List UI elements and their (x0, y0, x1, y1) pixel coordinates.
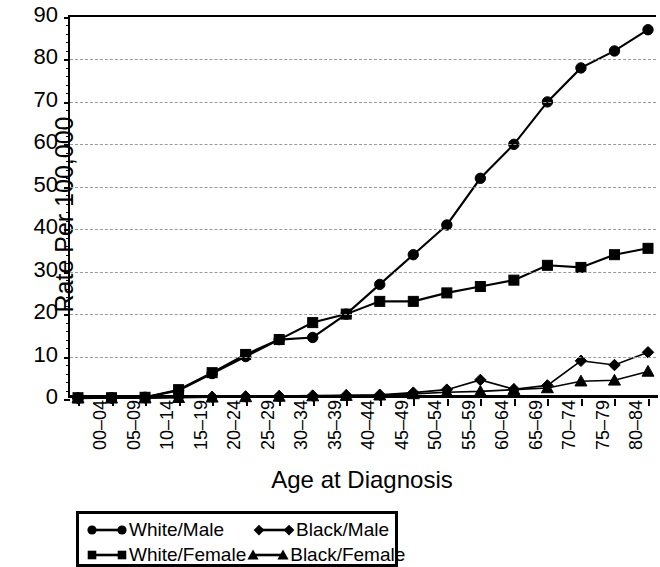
y-axis-minor-tick (66, 221, 70, 222)
y-axis-tick (64, 187, 70, 189)
y-axis-tick (64, 272, 70, 274)
x-axis-tick-label: 25–29 (259, 400, 277, 462)
series-marker-circle-icon (375, 279, 385, 289)
series-marker-square-icon (274, 335, 284, 345)
y-axis-minor-tick (66, 25, 70, 26)
y-axis-tick (64, 102, 70, 104)
series-marker-triangle-icon (642, 365, 654, 376)
y-axis-tick-label: 10 (14, 344, 58, 366)
y-axis-minor-tick (66, 263, 70, 264)
y-axis-minor-tick (66, 153, 70, 154)
y-axis-tick-labels: 9080706050403020100 (14, 0, 58, 567)
legend-marker-square-icon (85, 545, 129, 565)
y-axis-tick-label: 80 (14, 46, 58, 68)
x-axis-tick-label: 20–24 (225, 400, 243, 462)
y-axis-minor-tick (66, 68, 70, 69)
y-axis-minor-tick (66, 365, 70, 366)
gridline (70, 272, 656, 273)
legend-label: Black/Female (290, 545, 405, 564)
y-axis-minor-tick (66, 348, 70, 349)
y-axis-minor-tick (66, 34, 70, 35)
gridline (70, 144, 656, 145)
legend-item-white-female: White/Female (85, 545, 246, 565)
gridline (70, 187, 656, 188)
x-axis-tick-label: 65–69 (527, 400, 545, 462)
series-marker-square-icon (475, 282, 485, 292)
x-axis-line (68, 395, 658, 398)
x-axis-tick-label: 45–49 (393, 400, 411, 462)
series-line (78, 352, 648, 398)
series-marker-circle-icon (408, 249, 418, 259)
series-marker-square-icon (609, 250, 619, 260)
y-axis-minor-tick (66, 127, 70, 128)
y-axis-tick-label: 50 (14, 174, 58, 196)
y-axis-minor-tick (66, 195, 70, 196)
y-axis-minor-tick (66, 42, 70, 43)
legend-item-black-female: Black/Female (246, 545, 405, 565)
y-axis-minor-tick (66, 323, 70, 324)
x-axis-tick-labels: 00–0405–0910–1415–1920–2425–2930–3435–39… (68, 400, 656, 460)
legend-marker-circle-icon (85, 520, 129, 540)
y-axis-minor-tick (66, 297, 70, 298)
y-axis-minor-tick (66, 136, 70, 137)
y-axis-minor-tick (66, 93, 70, 94)
gridline (70, 314, 656, 315)
y-axis-tick (64, 17, 70, 19)
series-marker-circle-icon (475, 173, 485, 183)
x-axis-tick-label: 15–19 (192, 400, 210, 462)
y-axis-tick-label: 30 (14, 259, 58, 281)
x-axis-tick-label: 80–84 (627, 400, 645, 462)
legend-label: Black/Male (296, 520, 389, 539)
y-axis-tick-label: 40 (14, 216, 58, 238)
gridline (70, 357, 656, 358)
data-series (73, 25, 653, 404)
y-axis-minor-tick (66, 280, 70, 281)
y-axis-minor-tick (66, 51, 70, 52)
x-axis-tick-label: 70–74 (560, 400, 578, 462)
series-marker-square-icon (207, 368, 217, 378)
y-axis-minor-tick (66, 382, 70, 383)
x-axis-tick-label: 75–79 (594, 400, 612, 462)
series-marker-square-icon (442, 288, 452, 298)
series-marker-diamond-icon (475, 374, 487, 386)
legend-row: White/Male Black/Male (85, 517, 389, 542)
x-axis-tick-label: 50–54 (426, 400, 444, 462)
data-series-layer (70, 17, 658, 399)
series-marker-square-icon (509, 275, 519, 285)
y-axis-tick-label: 60 (14, 131, 58, 153)
plot-area (68, 15, 656, 397)
legend-label: White/Female (129, 545, 246, 564)
chart-legend: White/Male Black/Male White/Female Black… (76, 511, 398, 567)
series-marker-circle-icon (308, 332, 318, 342)
series-marker-circle-icon (609, 46, 619, 56)
x-axis-tick-label: 05–09 (125, 400, 143, 462)
gridline (70, 102, 656, 103)
x-axis-tick-label: 10–14 (158, 400, 176, 462)
y-axis-tick (64, 357, 70, 359)
series-marker-circle-icon (576, 63, 586, 73)
series-line (78, 30, 648, 398)
chart-container: Rate Per 100,000 9080706050403020100 00–… (0, 0, 660, 567)
y-axis-tick (64, 144, 70, 146)
y-axis-minor-tick (66, 255, 70, 256)
series-marker-diamond-icon (609, 359, 621, 371)
y-axis-minor-tick (66, 340, 70, 341)
y-axis-tick-label: 90 (14, 4, 58, 26)
y-axis-minor-tick (66, 306, 70, 307)
y-axis-tick (64, 229, 70, 231)
y-axis-minor-tick (66, 161, 70, 162)
y-axis-minor-tick (66, 85, 70, 86)
y-axis-tick (64, 59, 70, 61)
x-axis-tick-label: 35–39 (326, 400, 344, 462)
y-axis-tick-label: 20 (14, 301, 58, 323)
gridline (70, 59, 656, 60)
series-marker-square-icon (643, 243, 653, 253)
legend-marker-triangle-icon (246, 545, 290, 565)
y-axis-minor-tick (66, 331, 70, 332)
y-axis-minor-tick (66, 170, 70, 171)
gridline (70, 229, 656, 230)
y-axis-minor-tick (66, 289, 70, 290)
x-axis-tick-label: 00–04 (91, 400, 109, 462)
y-axis-minor-tick (66, 212, 70, 213)
x-axis-tick-label: 60–64 (493, 400, 511, 462)
